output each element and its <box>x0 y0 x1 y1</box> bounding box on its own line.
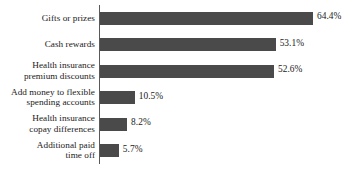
bar[interactable] <box>100 118 127 131</box>
bar-value-label: 53.1% <box>280 37 304 50</box>
bar[interactable] <box>100 12 313 25</box>
category-label: Health insurance premium discounts <box>0 60 95 81</box>
bar-row: Add money to flexible spending accounts … <box>0 85 349 112</box>
bar-row: Additional paid time off 5.7% <box>0 138 349 165</box>
bar-container <box>100 65 274 78</box>
bar-container <box>100 91 135 104</box>
bar[interactable] <box>100 91 135 104</box>
bar-rows: Gifts or prizes 64.4% Cash rewards 53.1%… <box>0 5 349 164</box>
bar[interactable] <box>100 144 119 157</box>
bar-container <box>100 12 313 25</box>
bar-row: Health insurance copay differences 8.2% <box>0 111 349 138</box>
bar-container <box>100 144 119 157</box>
category-label: Cash rewards <box>0 39 95 50</box>
category-label: Gifts or prizes <box>0 13 95 24</box>
bar-row: Gifts or prizes 64.4% <box>0 5 349 32</box>
bar-row: Health insurance premium discounts 52.6% <box>0 58 349 85</box>
bar-row: Cash rewards 53.1% <box>0 32 349 59</box>
bar-container <box>100 118 127 131</box>
bar-chart: Gifts or prizes 64.4% Cash rewards 53.1%… <box>0 0 349 172</box>
bar[interactable] <box>100 38 276 51</box>
bar-container <box>100 38 276 51</box>
category-label: Add money to flexible spending accounts <box>0 87 95 108</box>
bar-value-label: 52.6% <box>278 63 302 76</box>
bar[interactable] <box>100 65 274 78</box>
category-label: Health insurance copay differences <box>0 113 95 134</box>
bar-value-label: 10.5% <box>139 90 163 103</box>
bar-value-label: 5.7% <box>123 143 143 156</box>
bar-value-label: 8.2% <box>131 116 151 129</box>
category-label: Additional paid time off <box>0 140 95 161</box>
bar-value-label: 64.4% <box>317 10 341 23</box>
